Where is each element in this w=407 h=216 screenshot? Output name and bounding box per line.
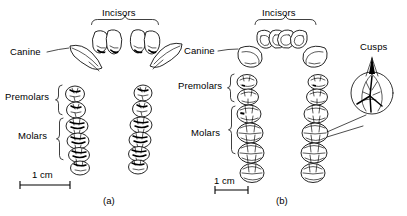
label-molars-a: Molars bbox=[18, 131, 47, 141]
canine-leader-a bbox=[47, 48, 69, 52]
label-premolars-a: Premolars bbox=[5, 92, 49, 102]
label-incisors-b: Incisors bbox=[262, 8, 296, 18]
scale-bar-a bbox=[20, 181, 70, 189]
canine-leader-b bbox=[218, 49, 238, 51]
incisor-group-a-left bbox=[92, 30, 121, 54]
molar-group-a-left bbox=[66, 118, 90, 175]
molar-group-b-left bbox=[237, 105, 264, 183]
premolar-group-b-left bbox=[237, 75, 259, 106]
premolar-group-b-right bbox=[307, 75, 329, 106]
cusps-pointer bbox=[366, 56, 378, 76]
label-cusps-b: Cusps bbox=[360, 42, 387, 52]
premolar-group-a-left bbox=[66, 86, 86, 118]
label-canine-a: Canine bbox=[10, 47, 41, 57]
premolars-brace-b bbox=[228, 74, 235, 102]
incisor-group-a-right bbox=[130, 30, 159, 54]
panel-caption-b: (b) bbox=[276, 196, 288, 206]
scale-label-b: 1 cm bbox=[214, 176, 235, 186]
incisor-group-b-right bbox=[278, 30, 308, 48]
label-canine-b: Canine bbox=[184, 46, 215, 56]
premolar-group-a-right bbox=[133, 85, 153, 117]
figure-linework bbox=[0, 0, 407, 216]
molar-group-a-right bbox=[129, 117, 153, 174]
molar-group-b-right bbox=[301, 105, 328, 183]
molars-brace-b bbox=[229, 106, 236, 154]
premolars-brace-a bbox=[56, 85, 63, 115]
scale-bar-b bbox=[215, 186, 248, 194]
panel-caption-a: (a) bbox=[103, 196, 115, 206]
label-incisors-a: Incisors bbox=[102, 8, 136, 18]
cusps-magnifier bbox=[351, 72, 393, 114]
label-premolars-b: Premolars bbox=[178, 81, 222, 91]
scale-label-a: 1 cm bbox=[32, 170, 53, 180]
label-molars-b: Molars bbox=[191, 128, 220, 138]
cusps-callout-connector bbox=[327, 115, 366, 137]
tooth-row-comparison-figure: Incisors Canine Premolars Molars 1 cm (a… bbox=[0, 0, 407, 216]
molars-brace-a bbox=[57, 118, 64, 160]
canine-b-right bbox=[303, 46, 327, 67]
canine-b-left bbox=[238, 46, 262, 67]
